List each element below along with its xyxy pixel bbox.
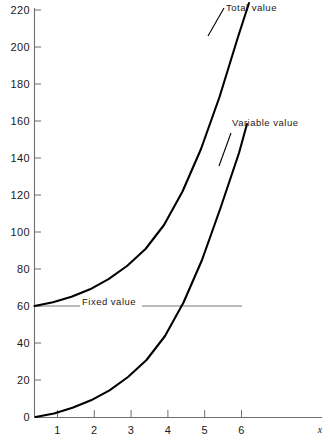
x-tick-label-5: 5 bbox=[201, 424, 208, 436]
x-axis-title: x bbox=[317, 424, 323, 435]
x-tick-label-4: 4 bbox=[165, 424, 172, 436]
y-tick-label-160: 160 bbox=[10, 115, 30, 127]
annotation-total-value: Total value bbox=[226, 2, 277, 13]
y-tick-label-0: 0 bbox=[23, 411, 30, 423]
x-tick-label-3: 3 bbox=[128, 424, 135, 436]
y-tick-label-80: 80 bbox=[17, 263, 30, 275]
y-tick-label-200: 200 bbox=[10, 41, 30, 53]
y-tick-label-100: 100 bbox=[10, 226, 30, 238]
y-tick-label-180: 180 bbox=[10, 78, 30, 90]
annotation-fixed-value: Fixed value bbox=[82, 296, 136, 307]
y-tick-label-140: 140 bbox=[10, 152, 30, 164]
y-tick-label-120: 120 bbox=[10, 189, 30, 201]
cost-curves-chart: 220 200 180 160 140 120 100 80 60 40 20 … bbox=[0, 0, 330, 448]
y-tick-label-60: 60 bbox=[17, 300, 30, 312]
y-tick-label-220: 220 bbox=[10, 4, 30, 16]
annotation-variable-value: Variable value bbox=[232, 117, 299, 128]
x-tick-label-2: 2 bbox=[91, 424, 98, 436]
y-tick-label-40: 40 bbox=[17, 337, 30, 349]
x-tick-label-6: 6 bbox=[238, 424, 245, 436]
chart-canvas: 220 200 180 160 140 120 100 80 60 40 20 … bbox=[0, 0, 330, 448]
x-tick-label-1: 1 bbox=[54, 424, 61, 436]
y-tick-label-20: 20 bbox=[17, 374, 30, 386]
